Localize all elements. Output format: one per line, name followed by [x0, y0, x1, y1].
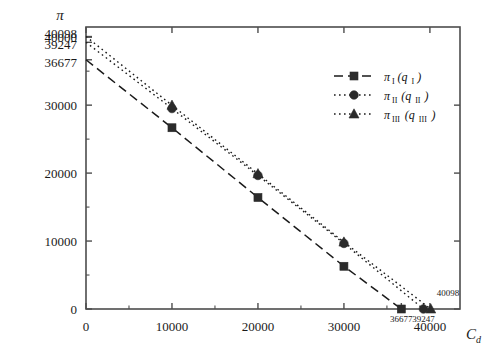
x-tick-label: 0: [83, 319, 90, 334]
y-tick-label-special: 39247: [45, 37, 78, 52]
legend-label-2: π: [384, 89, 391, 103]
y-tick-label: 30000: [45, 98, 78, 113]
y-tick-label: 20000: [45, 166, 78, 181]
y-tick-label: 0: [71, 302, 78, 317]
value-annotation: 40098: [437, 288, 460, 298]
legend-label-3: π: [384, 108, 391, 122]
legend-arg-subscript-1: I: [412, 77, 415, 86]
data-point-marker-1: [340, 262, 348, 270]
legend-arg-2: (q: [401, 89, 411, 103]
legend-label-subscript-3: III: [392, 115, 400, 124]
data-point-marker-1: [254, 194, 262, 202]
legend-label-1: π: [384, 70, 391, 84]
legend-marker-1: [350, 72, 358, 80]
profit-vs-cd-line-chart: 0100002000030000400000100002000030000400…: [0, 0, 484, 362]
legend-arg-subscript-3: III: [419, 115, 427, 124]
legend-label-subscript-1: I: [392, 77, 395, 86]
y-tick-label-special: 36677: [45, 55, 78, 70]
y-axis-title: π: [56, 7, 64, 23]
x-tick-label: 20000: [242, 319, 275, 334]
legend-label-subscript-2: II: [392, 96, 398, 105]
data-point-marker-1: [397, 305, 405, 313]
legend-paren-close-3: ): [431, 108, 436, 122]
x-tick-label-special: 39247: [412, 314, 435, 324]
legend-marker-2: [350, 91, 359, 100]
legend-paren-close-2: ): [423, 89, 428, 103]
x-tick-label: 30000: [328, 319, 361, 334]
legend-arg-3: (q: [405, 108, 415, 122]
data-point-marker-1: [168, 124, 176, 132]
legend-paren-close-1: ): [416, 70, 421, 84]
x-tick-label: 10000: [156, 319, 189, 334]
annotations-layer: 40098: [437, 288, 460, 298]
legend-arg-subscript-2: II: [415, 96, 421, 105]
legend-arg-1: (q: [398, 70, 408, 84]
y-tick-label: 10000: [45, 234, 78, 249]
chart-figure: 0100002000030000400000100002000030000400…: [0, 0, 484, 362]
x-tick-label-special: 36677: [390, 314, 413, 324]
